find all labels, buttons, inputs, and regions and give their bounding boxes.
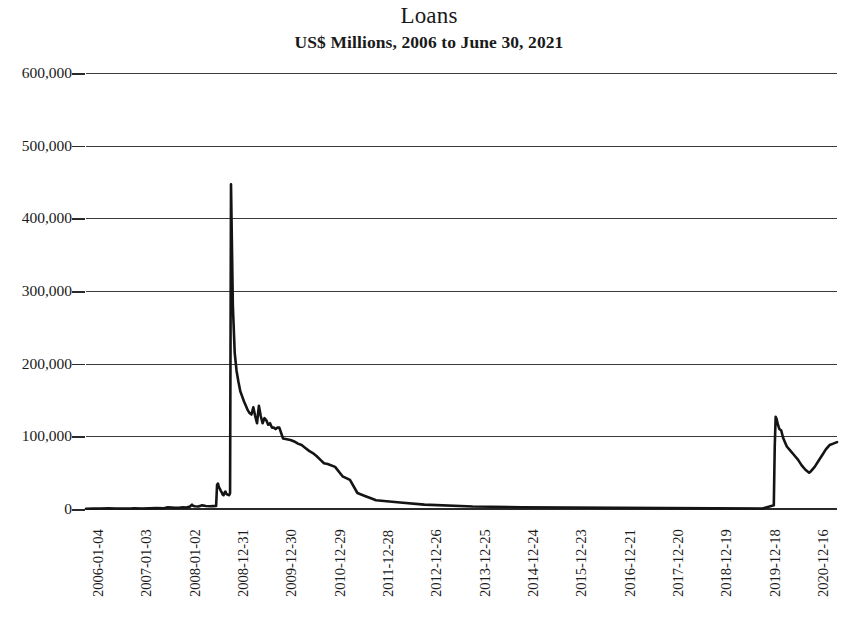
x-tick-label: 2007-01-03 [139, 529, 154, 597]
x-tick-label: 2020-12-16 [816, 529, 831, 597]
x-tick-label: 2011-12-28 [381, 530, 396, 597]
y-tick-label: 400,000 [0, 210, 72, 226]
y-tick-mark [72, 218, 85, 220]
series-loans [86, 73, 837, 509]
x-tick-label: 2015-12-23 [574, 529, 589, 597]
x-tick-label: 2019-12-18 [768, 529, 783, 597]
chart-subtitle: US$ Millions, 2006 to June 30, 2021 [0, 30, 858, 54]
x-tick-label: 2006-01-04 [91, 529, 106, 597]
x-tick-label: 2018-12-19 [719, 529, 734, 597]
y-tick-label: 300,000 [0, 283, 72, 299]
y-tick-label: 600,000 [0, 65, 72, 81]
y-tick-mark [72, 291, 85, 293]
chart-title: Loans [0, 2, 858, 30]
y-tick-label: 500,000 [0, 138, 72, 154]
y-tick-mark [72, 73, 85, 75]
y-tick-label: 0 [0, 501, 72, 517]
y-tick-mark [72, 146, 85, 148]
x-tick-label: 2012-12-26 [429, 529, 444, 597]
x-tick-label: 2014-12-24 [526, 529, 541, 597]
x-tick-label: 2008-01-02 [188, 529, 203, 597]
y-tick-mark [72, 436, 85, 438]
x-tick-label: 2017-12-20 [671, 529, 686, 597]
y-tick-label: 200,000 [0, 356, 72, 372]
plot-area [86, 73, 837, 509]
y-tick-label: 100,000 [0, 428, 72, 444]
y-tick-mark [72, 364, 85, 366]
x-tick-label: 2013-12-25 [478, 529, 493, 597]
loans-chart: Loans US$ Millions, 2006 to June 30, 202… [0, 0, 858, 622]
y-tick-mark [72, 509, 85, 511]
x-tick-label: 2016-12-21 [623, 529, 638, 597]
x-tick-label: 2010-12-29 [333, 529, 348, 597]
title-block: Loans US$ Millions, 2006 to June 30, 202… [0, 2, 858, 54]
x-tick-label: 2008-12-31 [236, 529, 251, 597]
x-tick-label: 2009-12-30 [284, 529, 299, 597]
series-loans-path [86, 184, 837, 509]
